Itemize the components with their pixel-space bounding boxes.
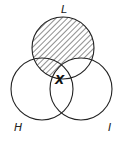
label-l: L: [61, 3, 67, 16]
shaded-region-l-minus-i: [0, 0, 123, 141]
label-h: H: [14, 121, 22, 134]
marker-x: X: [54, 73, 65, 87]
label-i: I: [108, 121, 111, 134]
venn-diagram: L H I X: [0, 0, 123, 141]
